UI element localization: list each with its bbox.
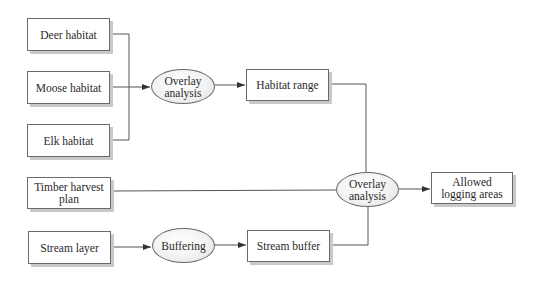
- node-timber-harvest-plan: Timber harvest plan: [27, 177, 111, 209]
- edge-timber-to-overlay2: [111, 190, 336, 191]
- node-label: Overlay analysis: [349, 178, 386, 202]
- gis-overlay-flowchart: Deer habitat Moose habitat Elk habitat O…: [0, 0, 536, 287]
- edge-stream-buffer-to-overlay2: [330, 207, 368, 245]
- node-moose-habitat: Moose habitat: [27, 71, 110, 104]
- node-label: Moose habitat: [36, 82, 101, 94]
- node-label: Buffering: [161, 240, 206, 252]
- node-habitat-range: Habitat range: [246, 69, 329, 101]
- node-label: Habitat range: [256, 79, 318, 91]
- node-overlay-analysis-2: Overlay analysis: [336, 172, 399, 207]
- node-label: Allowed logging areas: [441, 176, 503, 200]
- node-allowed-logging-areas: Allowed logging areas: [431, 172, 513, 204]
- node-buffering: Buffering: [152, 228, 215, 263]
- node-elk-habitat: Elk habitat: [27, 124, 110, 157]
- node-stream-buffer: Stream buffer: [247, 230, 330, 262]
- node-stream-layer: Stream layer: [28, 231, 111, 264]
- node-label: Overlay analysis: [164, 75, 201, 99]
- node-label: Deer habitat: [40, 29, 97, 41]
- node-deer-habitat: Deer habitat: [27, 18, 110, 51]
- node-label: Stream buffer: [257, 240, 320, 252]
- edge-habitat-range-to-overlay2: [329, 84, 366, 172]
- node-overlay-analysis-1: Overlay analysis: [151, 69, 215, 104]
- node-label: Stream layer: [40, 242, 98, 254]
- node-label: Elk habitat: [43, 135, 93, 147]
- node-label: Timber harvest plan: [34, 181, 104, 205]
